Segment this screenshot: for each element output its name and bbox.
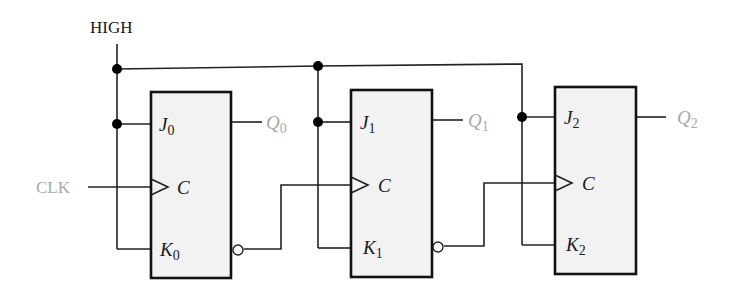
junction-dot	[112, 119, 122, 129]
flip-flop-2: J2 C K2 Q2	[555, 87, 698, 274]
inverted-output-bubble-icon	[433, 242, 443, 252]
q0-label: Q0	[266, 112, 287, 136]
q1-bar-to-c2-wire	[444, 183, 555, 246]
q1-label: Q1	[468, 110, 489, 134]
q2-label: Q2	[677, 107, 698, 131]
junction-dot	[112, 64, 122, 74]
junction-dot	[313, 61, 323, 71]
high-label: HIGH	[90, 18, 133, 37]
junction-dot	[313, 117, 323, 127]
counter-circuit-diagram: HIGH CLK J0 C K0 Q0 J1 C	[0, 0, 732, 297]
ff2-c-label: C	[582, 173, 595, 194]
flip-flop-1: J1 C K1 Q1	[351, 90, 489, 277]
clk-label: CLK	[36, 178, 71, 197]
ff1-c-label: C	[378, 175, 391, 196]
ff0-c-label: C	[177, 177, 190, 198]
junction-dot	[517, 112, 527, 122]
flip-flop-0: J0 C K0 Q0	[151, 92, 287, 278]
q0-bar-to-c1-wire	[244, 185, 351, 249]
inverted-output-bubble-icon	[233, 245, 243, 255]
